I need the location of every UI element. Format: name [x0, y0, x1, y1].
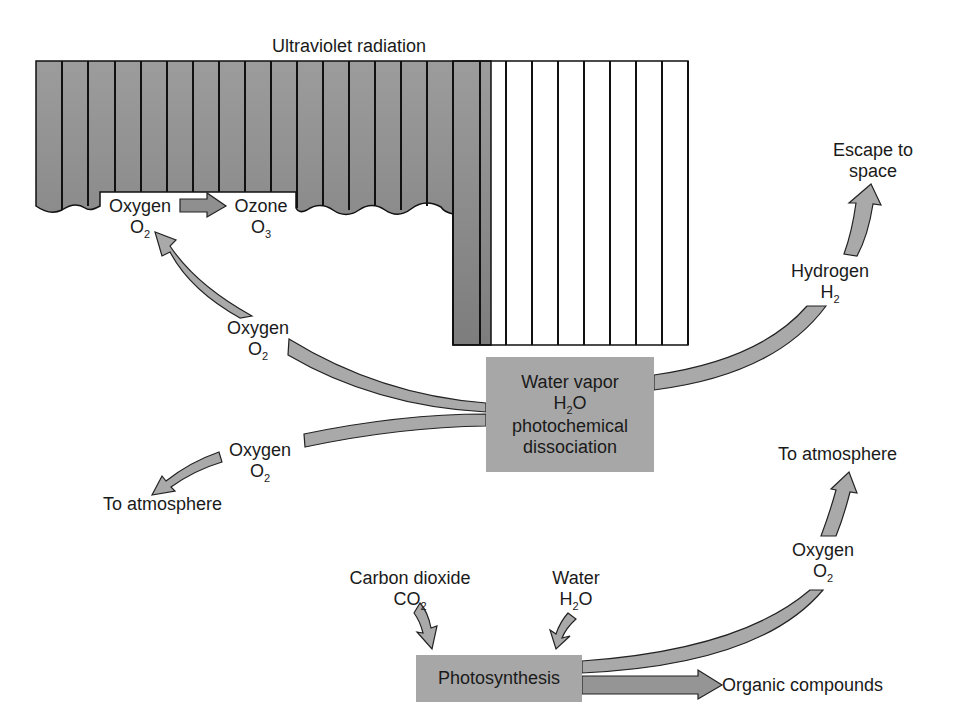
oxygen-to-ozone-arrow: [180, 193, 226, 217]
oxygen-photo-formula: O2: [778, 561, 868, 584]
hydrogen-escape-arrow: [844, 184, 881, 256]
organic-compounds-label: Organic compounds: [722, 675, 883, 696]
oxygen-to-atmosphere-arrow-right: [821, 472, 857, 536]
oxygen-lower-label: Oxygen O2: [220, 440, 300, 484]
oxygen-lower-name: Oxygen: [220, 440, 300, 461]
oxygen-upper-tube: [288, 339, 486, 412]
oxygen-lower-formula: O2: [220, 461, 300, 484]
to-atmosphere-left-label: To atmosphere: [103, 494, 222, 515]
space-label: space: [818, 161, 928, 182]
hydrogen-formula: H2: [780, 282, 880, 305]
photosynthesis-oxygen-tube: [582, 590, 823, 673]
water-name: Water: [536, 568, 616, 589]
carbon-dioxide-name: Carbon dioxide: [340, 568, 480, 589]
ozone-name: Ozone: [226, 196, 296, 217]
oxygen-upward-arrow: [155, 232, 252, 318]
photosynthesis-label: Photosynthesis: [438, 668, 560, 689]
hydrogen-name: Hydrogen: [780, 261, 880, 282]
ozone-formula: O3: [226, 217, 296, 240]
organic-compounds-arrow: [582, 670, 722, 699]
hydrogen-tube: [654, 306, 826, 390]
oxygen-upper-name: Oxygen: [218, 318, 298, 339]
to-atmosphere-right-label: To atmosphere: [778, 444, 897, 465]
photochemical-label: photochemical: [512, 416, 628, 437]
water-vapor-formula: H2O: [512, 393, 628, 416]
oxygen-label-ozone-layer: Oxygen O2: [100, 196, 180, 240]
dissociation-label: dissociation: [512, 437, 628, 458]
water-label: Water H2O: [536, 568, 616, 612]
oxygen-name: Oxygen: [100, 196, 180, 217]
oxygen-upper-label: Oxygen O2: [218, 318, 298, 362]
ozone-label: Ozone O3: [226, 196, 296, 240]
carbon-dioxide-formula: CO2: [340, 589, 480, 612]
water-formula: H2O: [536, 589, 616, 612]
diagram-canvas: [0, 0, 956, 723]
oxygen-upper-formula: O2: [218, 339, 298, 362]
water-input-arrow: [550, 613, 576, 649]
water-vapor-label: Water vapor: [512, 372, 628, 393]
oxygen-to-atmosphere-arrow-left: [152, 452, 222, 495]
hydrogen-label: Hydrogen H2: [780, 261, 880, 305]
water-vapor-dissociation-box: Water vapor H2O photochemical dissociati…: [486, 357, 654, 472]
carbon-dioxide-label: Carbon dioxide CO2: [340, 568, 480, 612]
oxygen-formula: O2: [100, 217, 180, 240]
photosynthesis-box: Photosynthesis: [416, 655, 582, 702]
oxygen-photosynthesis-label: Oxygen O2: [778, 540, 868, 584]
oxygen-lower-tube: [304, 414, 486, 447]
escape-to-label: Escape to: [818, 140, 928, 161]
escape-to-space-label: Escape to space: [818, 140, 928, 182]
oxygen-photo-name: Oxygen: [778, 540, 868, 561]
uv-radiation-title: Ultraviolet radiation: [272, 36, 426, 57]
